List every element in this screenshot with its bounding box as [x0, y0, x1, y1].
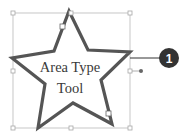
handle-middle-right[interactable]: [128, 69, 132, 73]
handle-bottom-right[interactable]: [128, 126, 132, 130]
out-port-dot[interactable]: [139, 69, 143, 73]
handle-top-left[interactable]: [11, 11, 15, 15]
handle-bottom-left[interactable]: [11, 126, 15, 130]
handle-top-right[interactable]: [128, 11, 132, 15]
handle-bottom-middle[interactable]: [69, 126, 73, 130]
area-text-line-1: Area Type: [40, 59, 100, 75]
path-anchor-point[interactable]: [60, 24, 65, 29]
path-anchor-point[interactable]: [106, 111, 111, 116]
area-text-line-2: Tool: [57, 80, 83, 96]
handle-middle-left[interactable]: [11, 69, 15, 73]
handle-top-middle[interactable]: [69, 11, 73, 15]
callout-number: 1: [166, 52, 173, 66]
area-type-diagram: Area Type Tool 1: [0, 0, 188, 140]
